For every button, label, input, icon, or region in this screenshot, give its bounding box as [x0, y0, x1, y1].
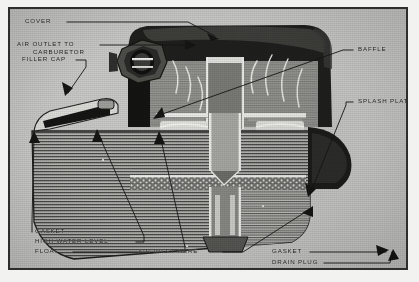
filler-cap-assembly: [34, 99, 118, 131]
central-tube: [203, 113, 248, 252]
callout-air-outlet-line1: AIR OUTLET TO: [17, 40, 74, 48]
filter-element-right: [256, 121, 304, 173]
callout-high-water-level: HIGH WATER LEVEL: [35, 237, 108, 245]
filter-element-left: [160, 121, 208, 173]
callout-drain-plug: DRAIN PLUG: [272, 258, 318, 266]
callout-splash-plate: SPLASH PLATE: [358, 97, 408, 105]
callout-filler-cap: FILLER CAP: [22, 55, 66, 63]
baffle-vanes: [173, 55, 302, 110]
air-outlet-neck: [109, 40, 167, 83]
leader-arrowheads: [29, 33, 399, 261]
leader-lines: [32, 22, 392, 263]
figure-plate: COVER AIR OUTLET TO CARBURETOR FILLER CA…: [0, 0, 419, 282]
illustration-frame: COVER AIR OUTLET TO CARBURETOR FILLER CA…: [8, 7, 408, 270]
callout-baffle: BAFFLE: [358, 45, 386, 53]
callout-float: FLOAT: [35, 247, 59, 255]
callout-cover: COVER: [25, 17, 51, 25]
callout-gasket-right: GASKET: [272, 247, 302, 255]
callout-air-inlet-here: AIR INLET HERE: [138, 247, 198, 255]
callout-gasket-left: GASKET: [35, 227, 65, 235]
